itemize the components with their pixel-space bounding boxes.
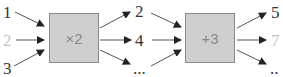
middle-label-1: 2 (135, 3, 144, 20)
operator-box-add: +3 (185, 13, 235, 63)
arrow-output-3 (237, 50, 266, 64)
arrow-output-1 (237, 13, 266, 28)
output-label-2: 7 (271, 32, 280, 49)
arrow-mid-to-box2-1 (151, 13, 181, 27)
output-label-1: 5 (271, 4, 280, 21)
middle-label-3: ... (133, 60, 146, 77)
input-label-1: 1 (3, 4, 12, 21)
arrow-mid-to-box2-3 (151, 50, 181, 66)
arrow-input-3 (14, 50, 44, 66)
operator-box-multiply: ×2 (49, 13, 99, 63)
operator-label-multiply: ×2 (65, 30, 82, 47)
input-label-2: 2 (3, 32, 12, 49)
input-label-3: 3 (3, 60, 12, 77)
output-label-3: .. (270, 60, 279, 77)
arrow-input-1 (15, 12, 44, 26)
arrow-mid-3 (100, 50, 130, 64)
arrow-mid-1 (100, 12, 130, 28)
function-pipeline-diagram: 1 2 3 ×2 2 4 ... +3 5 7 .. (0, 0, 283, 77)
operator-label-add: +3 (201, 30, 218, 47)
middle-label-2: 4 (135, 32, 144, 49)
